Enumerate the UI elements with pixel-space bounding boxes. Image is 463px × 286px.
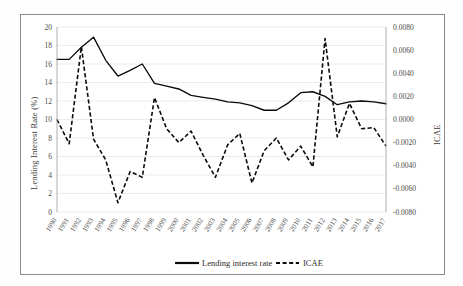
- x-axis-tick: 1991: [56, 216, 71, 233]
- x-axis-tick: 2012: [312, 216, 327, 233]
- y-axis-right-tick: -0.0020: [393, 138, 416, 147]
- chart-figure: 02468101214161820 -0.0080-0.0060-0.0040-…: [0, 0, 463, 286]
- x-axis-tick: 1997: [130, 216, 145, 233]
- x-axis-tick: 1994: [93, 216, 108, 233]
- x-axis-tick: 1990: [44, 216, 59, 233]
- x-axis-tick: 1999: [154, 216, 169, 233]
- data-series-group: [57, 37, 386, 203]
- dual-axis-line-chart: 02468101214161820 -0.0080-0.0060-0.0040-…: [0, 0, 463, 286]
- y-axis-left-tick: 6: [48, 152, 52, 161]
- x-axis-tick: 2000: [166, 216, 181, 233]
- x-axis-tick: 1995: [105, 216, 120, 233]
- x-axis-tick: 2015: [349, 216, 364, 233]
- y-axis-right-tick-labels: -0.0080-0.0060-0.0040-0.00200.00000.0020…: [393, 23, 416, 217]
- x-axis-tick: 2011: [300, 216, 314, 233]
- y-axis-left-tick: 14: [45, 78, 53, 87]
- y-axis-left-tick: 0: [48, 208, 52, 217]
- y-axis-right-tick: -0.0060: [393, 184, 416, 193]
- y-axis-left-tick-labels: 02468101214161820: [45, 23, 53, 217]
- y-axis-left-tick: 12: [45, 97, 53, 106]
- x-axis-tick: 1998: [142, 216, 157, 233]
- x-axis-tick: 2009: [276, 216, 291, 233]
- x-axis-tick: 2003: [203, 216, 218, 233]
- x-axis-tick: 2014: [337, 216, 352, 233]
- y-axis-right-tick: 0.0060: [393, 46, 414, 55]
- x-axis-tick: 2017: [373, 216, 388, 233]
- x-axis-tick: 1992: [69, 216, 84, 233]
- legend: Lending interest rate ICAE: [175, 258, 323, 268]
- x-axis-tick: 1996: [117, 216, 132, 233]
- y-axis-left-tick: 10: [45, 115, 53, 124]
- x-axis-tick: 2005: [227, 216, 242, 233]
- y-axis-left-tick: 16: [45, 60, 53, 69]
- x-axis-tick: 2016: [361, 216, 376, 233]
- x-axis-tick-labels: 1990199119921993199419951996199719981999…: [44, 216, 388, 233]
- x-axis-tick: 2004: [215, 216, 230, 233]
- legend-label-icae: ICAE: [303, 258, 323, 268]
- y-axis-left-tick: 18: [45, 41, 53, 50]
- y-axis-right-tick: 0.0080: [393, 23, 414, 32]
- legend-label-lending-interest-rate: Lending interest rate: [202, 258, 273, 268]
- y-axis-right-tick: 0.0020: [393, 92, 414, 101]
- y-axis-right-tick: 0.0000: [393, 115, 414, 124]
- y-axis-right-tick: -0.0080: [393, 208, 416, 217]
- y-axis-right-tick: 0.0040: [393, 69, 414, 78]
- y-axis-right-title: ICAE: [432, 124, 442, 145]
- x-axis-tick: 2001: [178, 216, 193, 233]
- series-line-lending-interest-rate: [57, 37, 386, 110]
- y-axis-left-tick: 2: [48, 189, 52, 198]
- x-axis-tick: 2006: [239, 216, 254, 233]
- y-axis-right-tick: -0.0040: [393, 161, 416, 170]
- x-axis-tick: 2008: [264, 216, 279, 233]
- y-axis-left-tick: 4: [48, 171, 52, 180]
- x-axis-tick: 1993: [81, 216, 96, 233]
- gridlines-group: [57, 27, 386, 212]
- y-axis-left-tick: 8: [48, 134, 52, 143]
- x-axis-tick: 2010: [288, 216, 303, 233]
- x-axis-tick: 2013: [325, 216, 340, 233]
- series-line-icae: [57, 39, 386, 203]
- x-axis-tick: 2002: [191, 216, 206, 233]
- y-axis-left-tick: 20: [45, 23, 53, 32]
- x-axis-tick: 2007: [251, 216, 266, 233]
- y-axis-left-title: Lending Interest Rate (%): [29, 96, 39, 190]
